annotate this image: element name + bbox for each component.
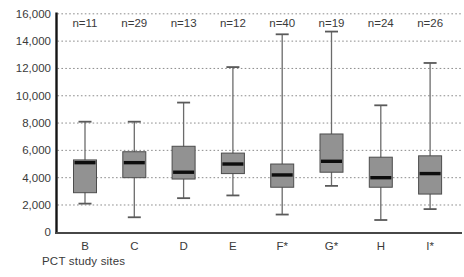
n-label-C: n=29: [121, 17, 147, 29]
boxplot-chart: 02,0004,0006,0008,00010,00012,00014,0001…: [0, 0, 464, 277]
x-tick-label-H: H: [377, 240, 385, 252]
y-tick-label-2000: 2,000: [22, 199, 51, 211]
x-axis-title: PCT study sites: [42, 255, 125, 267]
x-tick-label-C: C: [130, 240, 138, 252]
y-tick-label-0: 0: [45, 226, 51, 238]
iqr-box-D: [172, 146, 195, 179]
iqr-box-C: [123, 152, 146, 178]
iqr-box-Gstar: [320, 134, 343, 172]
y-tick-label-4000: 4,000: [22, 172, 51, 184]
n-label-Gstar: n=19: [319, 17, 345, 29]
x-tick-label-B: B: [81, 240, 89, 252]
boxplot-figure: 02,0004,0006,0008,00010,00012,00014,0001…: [0, 0, 464, 277]
n-label-D: n=13: [171, 17, 197, 29]
y-tick-label-10000: 10,000: [16, 90, 51, 102]
iqr-box-B: [74, 160, 97, 193]
y-tick-label-14000: 14,000: [16, 35, 51, 47]
x-tick-label-D: D: [179, 240, 187, 252]
y-tick-label-6000: 6,000: [22, 144, 51, 156]
n-label-E: n=12: [220, 17, 246, 29]
n-label-Fstar: n=40: [269, 17, 295, 29]
x-tick-label-Fstar: F*: [276, 240, 288, 252]
x-tick-label-Istar: I*: [426, 240, 434, 252]
x-tick-label-Gstar: G*: [325, 240, 339, 252]
y-tick-label-8000: 8,000: [22, 117, 51, 129]
n-label-Istar: n=26: [417, 17, 443, 29]
y-tick-label-12000: 12,000: [16, 62, 51, 74]
y-tick-label-16000: 16,000: [16, 8, 51, 20]
n-label-B: n=11: [72, 17, 97, 29]
iqr-box-H: [369, 157, 392, 187]
n-label-H: n=24: [368, 17, 395, 29]
x-tick-label-E: E: [229, 240, 237, 252]
